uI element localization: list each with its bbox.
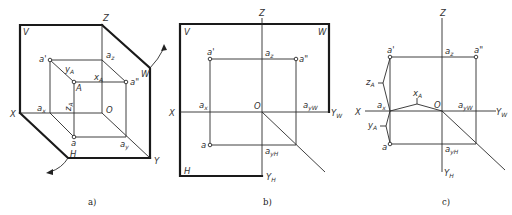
label-a-yW: ayW — [303, 100, 319, 112]
label-X: X — [354, 107, 361, 117]
label-a-double-prime: a" — [299, 54, 308, 64]
label-a-double-prime: a" — [474, 45, 483, 55]
caption-b: b) — [263, 197, 272, 207]
point-a-prime — [48, 58, 52, 62]
panel-c: Z X O YW YH a' a" a ax az ayW ayH zA yA … — [354, 8, 508, 207]
label-X: X — [168, 108, 175, 118]
label-Y-H: YH — [444, 168, 454, 179]
label-a-x: ax — [377, 100, 386, 111]
panel-a: V Z W X H Y O a' A a" a ax az ay xA yA z… — [9, 13, 167, 207]
y-A-brace — [386, 111, 390, 143]
label-H: H — [184, 166, 191, 176]
label-H: H — [70, 149, 77, 159]
label-a-z: az — [445, 46, 454, 57]
label-Z: Z — [439, 8, 446, 18]
label-y-A: yA — [64, 64, 74, 75]
label-x-A: xA — [412, 88, 422, 99]
point-a-prime — [388, 55, 392, 59]
45-degree-line — [262, 112, 325, 172]
label-z-A: zA — [63, 102, 74, 112]
label-Y-H: YH — [266, 172, 276, 183]
45-degree-line — [442, 111, 505, 170]
point-a — [388, 142, 392, 146]
point-a-double-prime — [124, 80, 128, 84]
label-a-x: ax — [199, 100, 208, 111]
label-Y-W: YW — [496, 107, 508, 118]
caption-c: c) — [442, 197, 450, 207]
label-z-A: zA — [365, 77, 375, 88]
label-V: V — [23, 27, 30, 37]
label-a-yW: ayW — [458, 100, 474, 112]
label-Y-W: YW — [331, 108, 343, 119]
label-W: W — [141, 69, 150, 79]
label-a-double-prime: a" — [130, 77, 139, 87]
projector-line — [102, 60, 126, 82]
label-a: a — [71, 138, 76, 148]
label-a-y: ay — [120, 139, 129, 151]
label-O: O — [106, 105, 113, 115]
label-a-prime: a' — [207, 47, 215, 57]
arrow-head-icon — [46, 169, 53, 175]
label-a-prime: a' — [39, 54, 47, 64]
v-plane-edge — [20, 25, 102, 113]
label-y-A: yA — [367, 120, 377, 131]
label-a-yH: ayH — [265, 146, 279, 158]
label-a-x: ax — [37, 103, 46, 114]
point-a-double-prime — [474, 55, 478, 59]
panel-b: V W H Z X O YW YH a' a" a ax az ayW ayH … — [168, 8, 343, 207]
projector-line — [50, 113, 74, 137]
label-V: V — [184, 27, 191, 37]
label-a-z: az — [106, 50, 115, 61]
label-a: a — [382, 142, 387, 152]
caption-a: a) — [88, 197, 96, 207]
label-a: a — [201, 140, 206, 150]
h-plane-edge — [20, 113, 150, 158]
label-Y: Y — [154, 156, 160, 166]
label-O: O — [434, 100, 441, 110]
label-O: O — [254, 101, 261, 111]
label-a-prime: a' — [387, 45, 395, 55]
projection-diagram: V Z W X H Y O a' A a" a ax az ay xA yA z… — [0, 0, 512, 215]
arrow-head-icon — [161, 44, 167, 51]
label-a-yH: ayH — [445, 144, 459, 156]
label-Z: Z — [102, 13, 109, 23]
label-X: X — [9, 109, 16, 119]
point-a-double-prime — [294, 57, 298, 61]
point-a — [208, 143, 212, 147]
label-W: W — [318, 27, 327, 37]
point-a-prime — [208, 57, 212, 61]
rotation-arrow-w — [150, 48, 164, 68]
label-a-z: az — [265, 48, 274, 59]
label-Z: Z — [258, 8, 265, 18]
label-A: A — [75, 83, 82, 93]
